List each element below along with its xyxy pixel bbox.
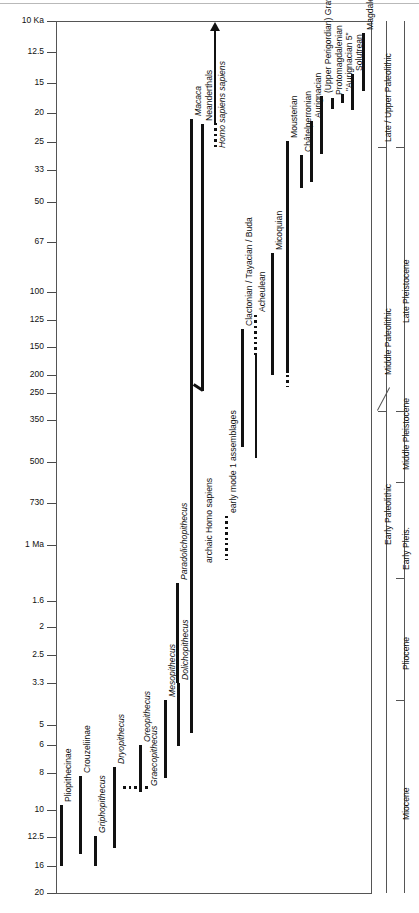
epoch-late-pleistocene: Late Pleistocene xyxy=(402,259,411,323)
paleolithic-late-upper: Late / Upper Paleolithic xyxy=(384,53,393,142)
epoch-divider-4 xyxy=(396,578,405,579)
paleolithic-divider-upper xyxy=(378,147,387,148)
range-bar-acheulean-dotted xyxy=(254,315,257,355)
range-bar-gravettian xyxy=(320,96,323,154)
label-homo-sapiens-sapiens: Homo sapiens sapiens xyxy=(218,61,227,148)
label-archaic-homo-sapiens: archaic Homo sapiens xyxy=(205,478,214,563)
label-magdalenian: Magdalenian xyxy=(366,0,375,30)
label-protomagdalenian: Protomagdalenian xyxy=(335,25,344,95)
range-bar-aurignacian-5 xyxy=(341,94,344,103)
paleolithic-column-rule xyxy=(386,21,387,893)
paleolithic-early: Early Paleolithic xyxy=(384,484,393,545)
label-micoquian: Micoquian xyxy=(275,211,284,250)
range-bar-clactonian xyxy=(241,329,244,447)
label-clactonian: Clactonian / Tayacian / Buda xyxy=(245,217,254,326)
range-bar-protomagdalenian xyxy=(331,98,334,109)
range-bar-aurignacian xyxy=(310,121,313,182)
paleolithic-middle: Middle Paleolithic xyxy=(384,308,393,375)
label-mousterian: Mousterian xyxy=(290,95,299,138)
range-bar-acheulean xyxy=(255,355,258,458)
label-acheulean: Acheulean xyxy=(258,271,267,312)
epoch-middle-pleistocene: Middle Pleistocene xyxy=(402,398,411,470)
range-bar-mousterian xyxy=(286,141,289,373)
epoch-divider-5 xyxy=(396,700,405,701)
range-bar-micoquian xyxy=(271,253,274,375)
range-bar-archaic-homo-sapiens xyxy=(0,0,419,913)
label-early-mode-1: early mode 1 assemblages xyxy=(229,410,238,513)
epoch-miocene: Miocene xyxy=(402,788,411,820)
hominid-chronology-chart: 10 Ka12.51520253350671001251502002503505… xyxy=(0,0,419,913)
epoch-pliocene: Pliocene xyxy=(402,637,411,670)
range-bar-early-mode-1 xyxy=(225,516,228,560)
epoch-divider-3 xyxy=(396,482,405,483)
paleolithic-divider-lower xyxy=(378,411,387,412)
range-bar-magdalenian xyxy=(362,33,365,91)
range-bar-chatelperronian xyxy=(300,155,303,188)
range-bar-mousterian-dotted xyxy=(286,375,289,387)
label-gravettian: (Upper Perigordian) Gravettian xyxy=(324,0,333,93)
epoch-divider-1 xyxy=(396,147,405,148)
range-bar-solutrean xyxy=(351,74,354,110)
range-bar-homo-sapiens-sapiens xyxy=(214,30,217,123)
epoch-early-pleistocene: Early Pleis. xyxy=(402,527,411,570)
